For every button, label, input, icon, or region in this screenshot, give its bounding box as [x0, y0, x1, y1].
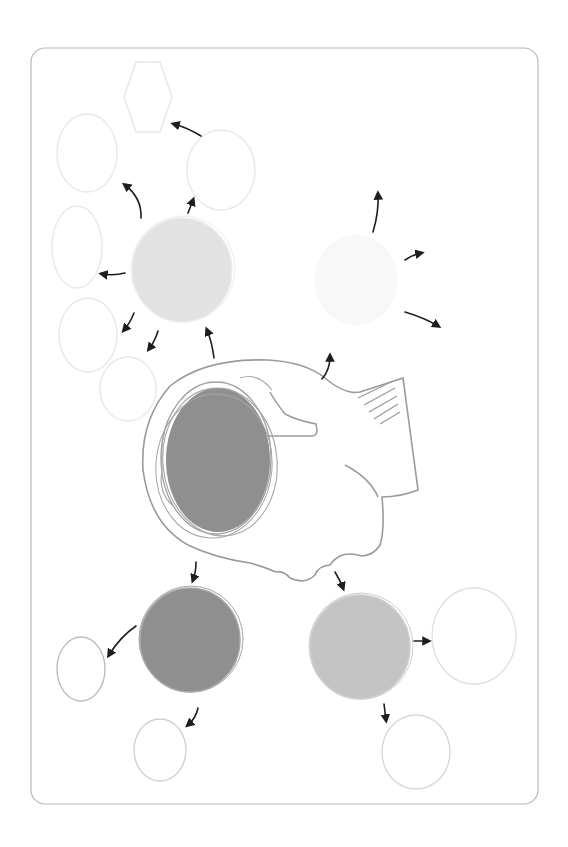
- arrow-icon-tl-hub-to-circle-4: [124, 313, 134, 330]
- arrow-icon-tr-hub-right: [405, 253, 421, 260]
- arrow-icon-head-to-tr-hub: [322, 356, 330, 379]
- head-silhouette: [143, 360, 418, 581]
- arrow-icon-bl-hub-to-circle-2: [188, 708, 198, 725]
- arrow-icon-tl-hub-to-circle-2: [188, 200, 193, 213]
- arrow-icon-br-hub-to-circle-2: [384, 704, 386, 720]
- node-top-left-hub: [132, 218, 232, 322]
- node-tl-circle-5: [100, 357, 156, 421]
- arrow-icon-tl-hub-to-circle-5: [149, 331, 158, 349]
- node-hexagon: [124, 62, 172, 132]
- arrow-icon-tl-hub-to-circle-3: [102, 273, 125, 275]
- arrow-icon-tr-hub-up: [373, 194, 378, 232]
- arrow-icon-head-to-tl-hub: [207, 330, 214, 358]
- node-bl-circle-2: [134, 719, 186, 781]
- arrow-icon-bl-hub-to-circle-1: [109, 626, 136, 655]
- node-tl-circle-4: [59, 298, 117, 372]
- node-bl-circle-1: [57, 637, 105, 701]
- node-br-circle-2: [382, 715, 450, 789]
- mind-map-canvas: [0, 0, 568, 847]
- arrow-icon-tl-circle-2-to-hexagon: [174, 124, 201, 136]
- mind-map-diagram: [0, 0, 568, 847]
- node-tl-circle-2: [187, 130, 255, 210]
- node-tl-circle-1: [57, 114, 117, 192]
- arrow-icon-tl-hub-to-circle-1: [125, 185, 141, 218]
- node-tl-circle-3: [52, 206, 102, 288]
- arrow-icon-tr-hub-down-right: [405, 312, 438, 326]
- arrow-icon-head-to-br-hub: [335, 572, 343, 588]
- node-bottom-left-hub: [140, 588, 240, 692]
- arrow-icon-head-to-bl-hub: [193, 562, 196, 580]
- node-top-right-hub: [314, 235, 398, 325]
- node-br-circle-1: [432, 588, 516, 684]
- node-bottom-right-hub: [310, 595, 410, 699]
